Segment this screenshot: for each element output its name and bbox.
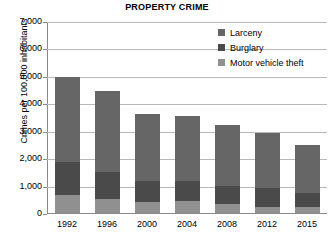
bar-stack — [55, 77, 80, 213]
bar-segment-larceny — [175, 116, 200, 181]
legend-swatch-icon — [218, 29, 225, 36]
bar-segment-larceny — [55, 77, 80, 162]
bar-segment-burglary — [255, 188, 280, 206]
y-axis-tick-label: 2,000 — [0, 153, 42, 163]
bar-segment-motor-vehicle-theft — [55, 195, 80, 213]
legend-swatch-icon — [218, 44, 225, 51]
y-axis-tick — [43, 49, 47, 50]
x-axis-tick-label: 2008 — [207, 219, 247, 229]
y-axis-tick — [43, 187, 47, 188]
legend-item: Burglary — [218, 42, 304, 53]
x-axis-line — [47, 213, 327, 214]
bar-segment-larceny — [215, 125, 240, 186]
y-axis-tick — [43, 104, 47, 105]
bar-segment-motor-vehicle-theft — [135, 202, 160, 213]
bar-segment-larceny — [255, 133, 280, 188]
x-axis-tick-label: 1996 — [87, 219, 127, 229]
x-axis-tick-label: 2012 — [247, 219, 287, 229]
legend-label: Larceny — [230, 28, 262, 38]
bar-stack — [255, 133, 280, 213]
y-axis-tick-label: 7,000 — [0, 16, 42, 26]
chart-legend: LarcenyBurglaryMotor vehicle theft — [218, 27, 304, 72]
bar-segment-motor-vehicle-theft — [175, 201, 200, 213]
bar-stack — [215, 125, 240, 213]
y-axis-tick — [43, 214, 47, 215]
bar-segment-burglary — [175, 181, 200, 201]
y-axis-tick-label: 5,000 — [0, 71, 42, 81]
y-axis-tick-label: 0 — [0, 208, 42, 218]
bar-segment-motor-vehicle-theft — [295, 207, 320, 213]
bar-segment-burglary — [55, 162, 80, 195]
bar-segment-larceny — [135, 114, 160, 181]
gridline — [47, 22, 327, 23]
y-axis-tick-label: 4,000 — [0, 98, 42, 108]
chart-title: PROPERTY CRIME — [0, 2, 334, 12]
bar-segment-motor-vehicle-theft — [255, 207, 280, 213]
legend-label: Burglary — [230, 43, 264, 53]
x-axis-tick-label: 2004 — [167, 219, 207, 229]
property-crime-chart: PROPERTY CRIME Crimes per 100,000 inhabi… — [0, 0, 334, 247]
bar-segment-burglary — [95, 172, 120, 198]
x-axis-tick-label: 2015 — [287, 219, 327, 229]
legend-item: Larceny — [218, 27, 304, 38]
y-axis-tick — [43, 77, 47, 78]
legend-label: Motor vehicle theft — [230, 58, 304, 68]
y-axis-tick — [43, 159, 47, 160]
y-axis-line — [47, 22, 48, 214]
bar-stack — [135, 114, 160, 213]
bar-segment-burglary — [135, 181, 160, 201]
y-axis-tick — [43, 22, 47, 23]
legend-swatch-icon — [218, 59, 225, 66]
bar-segment-burglary — [215, 186, 240, 205]
y-axis-tick — [43, 132, 47, 133]
y-axis-tick-label: 3,000 — [0, 126, 42, 136]
gridline — [47, 77, 327, 78]
bar-segment-motor-vehicle-theft — [95, 199, 120, 213]
bar-stack — [175, 116, 200, 213]
bar-segment-burglary — [295, 193, 320, 207]
gridline — [47, 104, 327, 105]
bar-segment-larceny — [95, 91, 120, 172]
bar-stack — [95, 91, 120, 213]
bar-stack — [295, 145, 320, 213]
bar-segment-motor-vehicle-theft — [215, 204, 240, 213]
y-axis-tick-label: 6,000 — [0, 43, 42, 53]
y-axis-tick-label: 1,000 — [0, 181, 42, 191]
bar-segment-larceny — [295, 145, 320, 193]
legend-item: Motor vehicle theft — [218, 57, 304, 68]
x-axis-tick-label: 2000 — [127, 219, 167, 229]
x-axis-tick-label: 1992 — [47, 219, 87, 229]
